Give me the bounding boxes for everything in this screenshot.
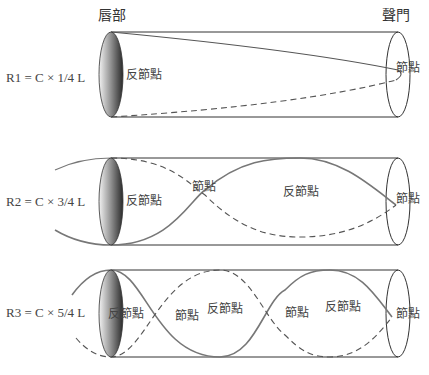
node-label: 節點	[396, 191, 420, 206]
tube-r2	[55, 158, 410, 245]
antinode-label: 反節點	[126, 193, 162, 208]
wave-dashed-r1	[111, 80, 396, 117]
glottis-header: 聲門	[382, 7, 410, 23]
antinode-label: 反節點	[207, 301, 243, 316]
antinode-label: 反節點	[126, 67, 162, 82]
node-label: 節點	[175, 308, 199, 323]
antinode-label: 反節點	[283, 184, 319, 199]
equation-r2: R2 = C × 3/4 L	[6, 194, 85, 209]
node-label: 節點	[285, 305, 309, 320]
standing-wave-diagram: 唇部 聲門 R1 = C × 1/4 L 反節點 節點 R2 = C × 3/4…	[0, 0, 429, 375]
equation-r1: R1 = C × 1/4 L	[6, 70, 85, 85]
lips-header: 唇部	[98, 7, 126, 23]
equation-r3: R3 = C × 5/4 L	[6, 305, 85, 320]
lips-end-r1	[99, 32, 123, 117]
node-label: 節點	[396, 60, 420, 75]
node-label: 節點	[192, 179, 216, 194]
antinode-label: 反節點	[108, 306, 144, 321]
node-label: 節點	[396, 306, 420, 321]
lips-end-r2	[99, 158, 123, 245]
antinode-label: 反節點	[325, 299, 361, 314]
